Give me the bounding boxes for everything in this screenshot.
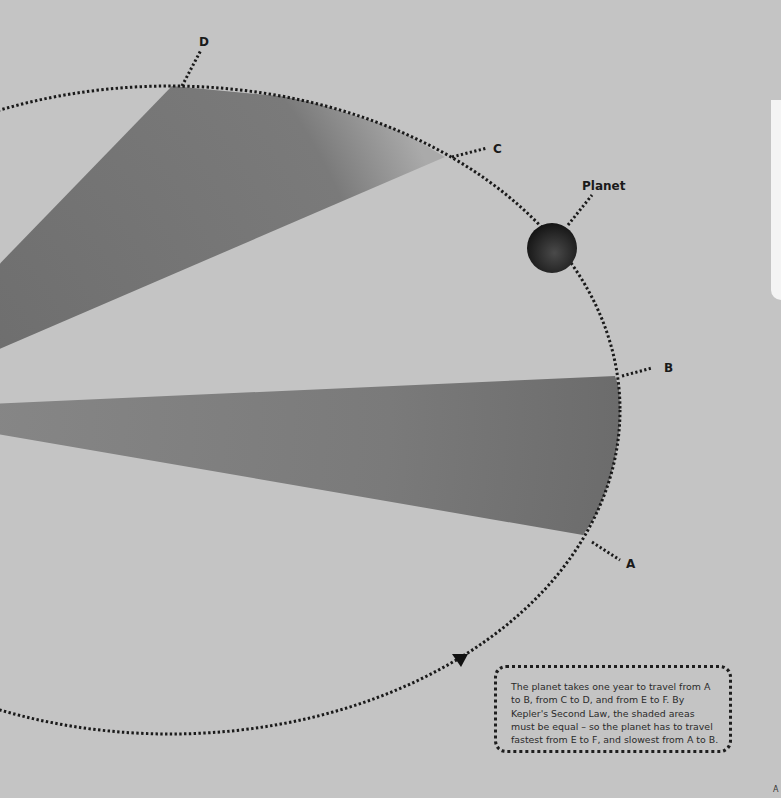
caption-text: The planet takes one year to travel from… — [511, 681, 718, 745]
label-c: C — [493, 143, 502, 155]
caption-box: The planet takes one year to travel from… — [494, 665, 732, 753]
sector-a-to-b — [0, 376, 640, 535]
page-edge — [771, 100, 781, 300]
corner-mark: A — [773, 785, 778, 794]
label-d: D — [199, 36, 209, 48]
direction-triangle-icon — [452, 654, 468, 667]
planet — [527, 223, 577, 273]
sector-c-to-d — [0, 86, 445, 410]
label-b: B — [664, 362, 673, 374]
label-a: A — [626, 558, 635, 570]
planet-label: Planet — [582, 180, 625, 192]
